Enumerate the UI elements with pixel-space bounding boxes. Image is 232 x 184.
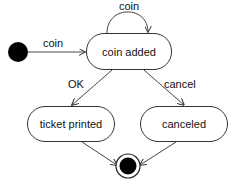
transition-ticket-to-final — [82, 142, 117, 165]
final-state — [116, 154, 140, 178]
state-label: ticket printed — [40, 118, 102, 130]
transition-self-loop-coin — [107, 12, 148, 33]
transition-label-self-loop-coin: coin — [119, 0, 139, 12]
state-ticket-printed: ticket printed — [27, 106, 115, 142]
initial-state — [8, 42, 28, 62]
diagram-canvas — [0, 0, 232, 184]
transition-label-ok: OK — [68, 78, 84, 90]
state-canceled: canceled — [140, 106, 228, 142]
transition-canceled-to-final — [140, 142, 176, 165]
transition-label-initial-coin: coin — [43, 37, 63, 49]
state-label: coin added — [102, 46, 156, 58]
transition-label-cancel: cancel — [164, 78, 196, 90]
state-label: canceled — [162, 118, 206, 130]
state-coin-added: coin added — [86, 33, 172, 70]
